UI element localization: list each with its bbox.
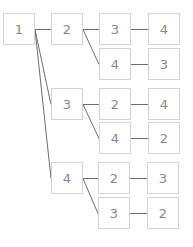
permutation-tree-diagram: 1234344324422332 xyxy=(0,0,193,247)
tree-node: 3 xyxy=(148,48,180,80)
tree-node: 2 xyxy=(99,88,131,120)
tree-node: 4 xyxy=(148,13,180,45)
tree-node: 3 xyxy=(51,88,83,120)
tree-node: 2 xyxy=(148,122,180,154)
tree-node: 2 xyxy=(51,13,83,45)
tree-node: 4 xyxy=(99,122,131,154)
tree-node: 4 xyxy=(148,88,180,120)
tree-node: 4 xyxy=(51,162,83,194)
tree-edge xyxy=(83,105,99,139)
tree-edge xyxy=(35,30,51,179)
tree-node: 2 xyxy=(98,162,130,194)
tree-node: 2 xyxy=(147,197,179,229)
tree-node: 4 xyxy=(99,48,131,80)
tree-node: 3 xyxy=(147,162,179,194)
tree-node: 1 xyxy=(3,13,35,45)
tree-edge xyxy=(83,179,98,214)
tree-edge xyxy=(35,30,51,105)
tree-edge xyxy=(83,30,99,65)
tree-node: 3 xyxy=(99,13,131,45)
tree-node: 3 xyxy=(98,197,130,229)
